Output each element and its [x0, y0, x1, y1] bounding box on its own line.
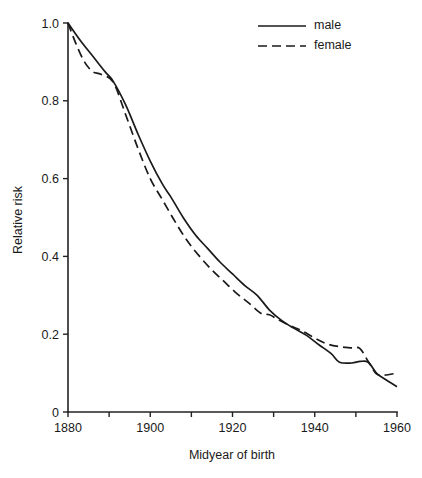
series-line-female	[68, 23, 397, 375]
y-tick-label: 0	[52, 406, 59, 420]
x-tick-label: 1880	[54, 421, 82, 435]
y-tick-label: 0.4	[42, 250, 59, 264]
relative-risk-line-chart: 00.20.40.60.81.0 18801900192019401960 Mi…	[0, 0, 422, 478]
series-group	[68, 23, 397, 387]
x-tick-label: 1900	[136, 421, 164, 435]
legend-label-male: male	[314, 18, 341, 32]
x-tick-label: 1940	[301, 421, 329, 435]
legend-label-female: female	[314, 38, 352, 52]
x-tick-label: 1960	[383, 421, 411, 435]
y-axis-ticks: 00.20.40.60.81.0	[42, 17, 68, 420]
x-axis-ticks: 18801900192019401960	[54, 412, 411, 435]
y-tick-label: 0.8	[42, 94, 59, 108]
x-axis-title: Midyear of birth	[189, 448, 275, 462]
series-line-male	[68, 23, 397, 387]
y-tick-label: 0.2	[42, 328, 59, 342]
y-tick-label: 0.6	[42, 172, 59, 186]
chart-legend: male female	[258, 18, 352, 52]
x-tick-label: 1920	[219, 421, 247, 435]
y-tick-label: 1.0	[42, 17, 59, 31]
y-axis-title: Relative risk	[11, 185, 25, 254]
